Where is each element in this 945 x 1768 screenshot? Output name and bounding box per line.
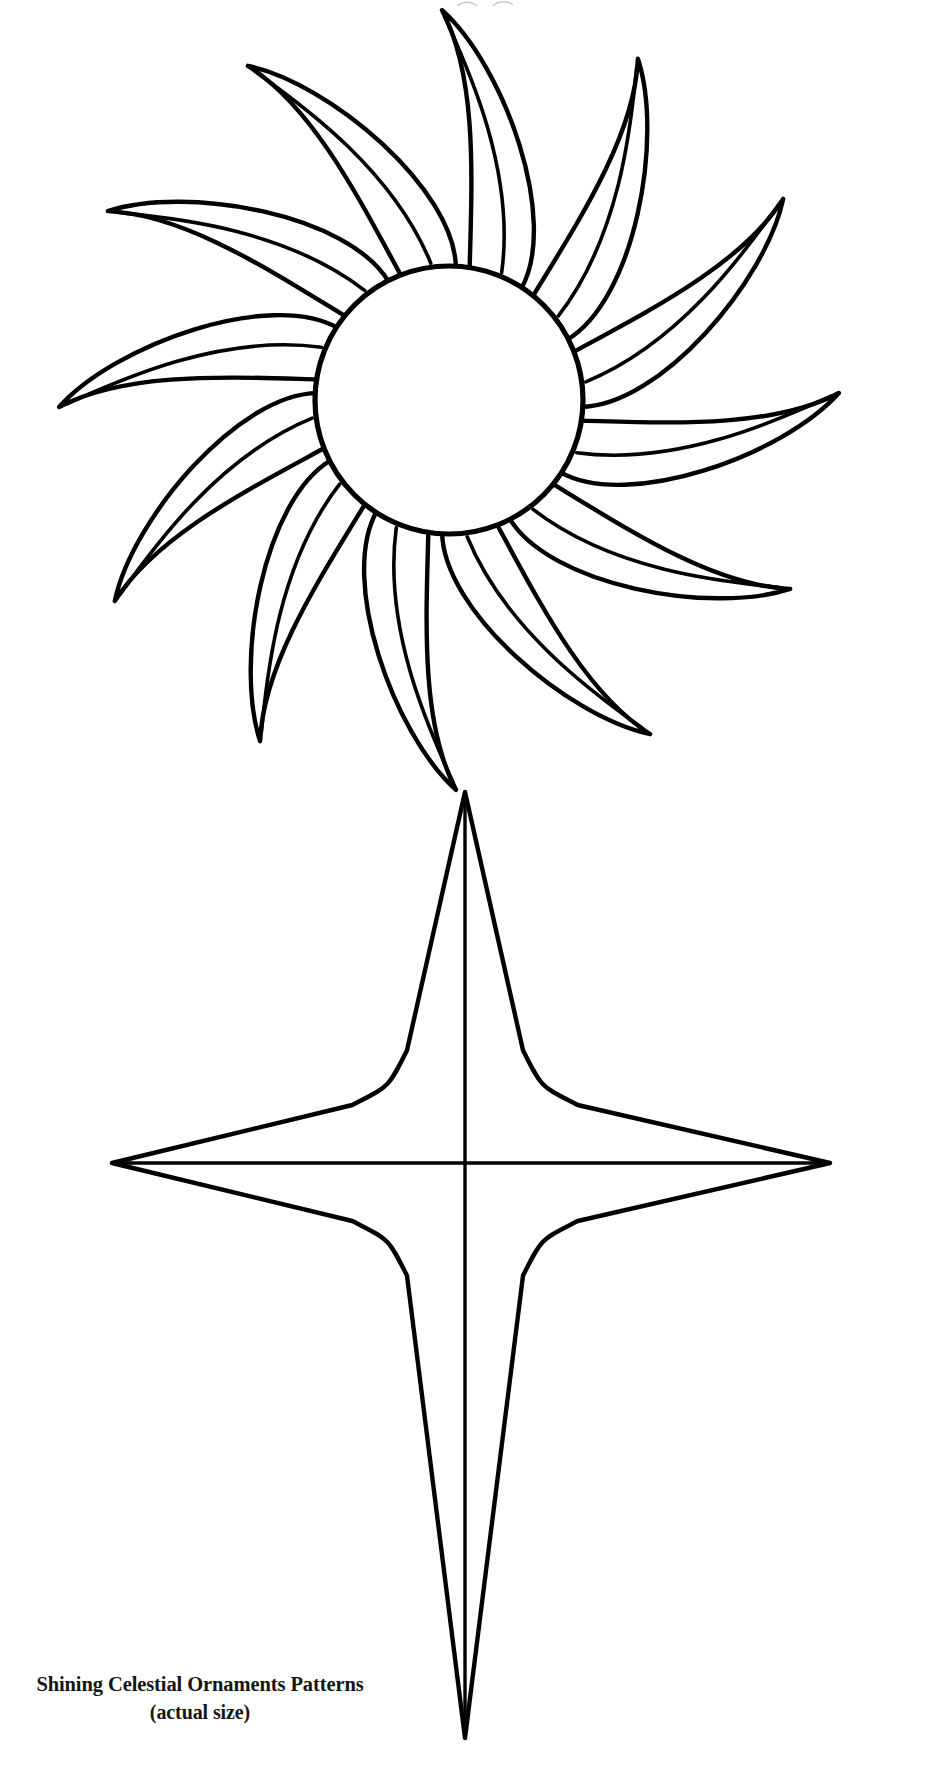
caption-subtitle: (actual size): [0, 1700, 400, 1725]
sun-ray-crease: [394, 528, 453, 782]
sun-ray: [509, 483, 790, 598]
sun-ray: [248, 66, 456, 277]
sun-ray: [560, 393, 839, 485]
sun-ray-crease: [533, 509, 782, 587]
sun-ray: [108, 202, 389, 317]
sun-ray-crease: [261, 484, 339, 733]
sun-ray-crease: [558, 67, 636, 316]
sun-ray: [115, 393, 326, 601]
sun-ray-crease: [586, 206, 778, 382]
sun-ray-crease: [577, 396, 831, 455]
sun-ray-crease: [67, 345, 321, 404]
sun-ray: [251, 460, 366, 741]
sun-core-circle: [315, 266, 583, 534]
sun-ray-crease: [445, 18, 504, 272]
sun-ray: [442, 523, 650, 734]
star-outline-path: [112, 792, 830, 1738]
sun-rays-group: [59, 10, 839, 790]
caption-title: Shining Celestial Ornaments Patterns: [0, 1672, 400, 1698]
sun-ray: [572, 199, 783, 407]
page-top-artifact: [455, 0, 515, 7]
sun-ray-crease: [120, 418, 312, 594]
sun-illustration: [0, 0, 945, 1768]
sun-ray: [532, 59, 647, 340]
sun-ray-crease: [116, 212, 365, 290]
sun-ray: [442, 10, 534, 289]
four-point-star-group: [112, 792, 830, 1738]
pattern-page: Shining Celestial Ornaments Patterns (ac…: [0, 0, 945, 1768]
caption-block: Shining Celestial Ornaments Patterns (ac…: [0, 1672, 400, 1725]
sun-ray: [364, 511, 456, 790]
sun-ray: [59, 315, 338, 407]
sun-ray-crease: [467, 537, 643, 729]
sun-ray-crease: [255, 71, 431, 263]
star-illustration: [0, 0, 945, 1768]
